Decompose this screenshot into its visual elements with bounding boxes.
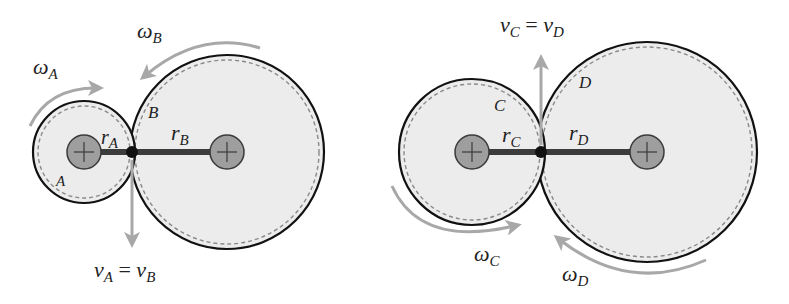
right-gear-pair: vC = vD C D rC rD ωC ωD (392, 12, 757, 289)
gear-d-label: D (578, 73, 592, 92)
gear-a-label: A (55, 173, 66, 189)
gear-diagram: ωA ωB B A rA rB vA = vB (0, 0, 789, 304)
omega-b-label: ωB (137, 18, 162, 46)
hub-d (630, 135, 664, 169)
omega-a-label: ωA (33, 54, 59, 82)
contact-point-cd (535, 146, 547, 158)
contact-point-ab (126, 146, 138, 158)
velocity-cd-label: vC = vD (500, 12, 564, 40)
omega-d-label: ωD (562, 261, 589, 289)
omega-c-label: ωC (474, 241, 501, 269)
hub-a (67, 135, 101, 169)
velocity-ab-label: vA = vB (94, 257, 155, 285)
hub-c (455, 135, 489, 169)
gear-c-label: C (494, 96, 506, 115)
hub-b (210, 135, 244, 169)
left-gear-pair: ωA ωB B A rA rB vA = vB (30, 18, 324, 285)
gear-b-label: B (148, 103, 159, 122)
